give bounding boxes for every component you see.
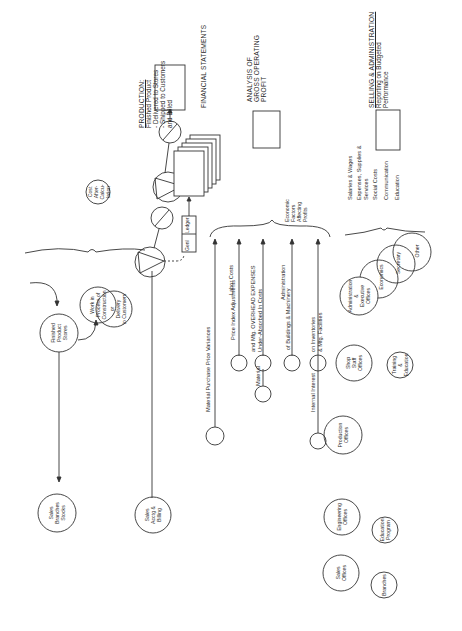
sales-offices-node: Sales Offices — [323, 555, 359, 591]
node-line: Branches — [381, 574, 387, 596]
node-line: Administration — [347, 280, 353, 313]
buildings-label: of Buildings & Machinery — [285, 288, 292, 350]
ledger-ledger-label: Ledger — [184, 217, 191, 233]
education-program-node: Education Program — [372, 517, 398, 543]
node-line: Executive — [359, 280, 365, 313]
node-line: & — [353, 280, 359, 313]
expense-item: Services — [362, 146, 370, 200]
sales-branches-stocks-node: Sales Branches Stocks — [38, 494, 76, 532]
expense-list: Salaries & Wages Expenses, Supplies & Se… — [345, 146, 403, 200]
node-line: to Customers — [121, 294, 127, 325]
finished-stores-node: Finished Product Stores — [40, 314, 78, 352]
node-line: Offices — [341, 565, 347, 581]
expense-item: Social Costs — [370, 146, 381, 200]
selling-admin-box — [376, 110, 400, 150]
selling-admin-line: Reporting on Budgeted — [375, 12, 382, 108]
gross-profit-title: ANALYSIS OF GROSS OPERATING PROFIT — [246, 35, 267, 102]
sales-acctg-billing-node: Sales Acctg & Billing — [135, 497, 171, 533]
expense-item: Salaries & Wages — [345, 146, 356, 200]
shop-staff-offices-node: Shop Staff Offices — [336, 345, 372, 381]
node-line: Stocks — [60, 502, 66, 524]
node-line: or — [109, 294, 115, 325]
overhead-line: and Mfg. OVERHEAD EXPENSES — [250, 266, 257, 352]
node-line: Offices — [343, 423, 349, 448]
node-line: lation — [104, 185, 110, 200]
price-index-label: Price Index Adjustments — [230, 280, 237, 340]
production-line: - Shipped to Customers — [159, 61, 166, 128]
node-line: Other — [414, 245, 420, 258]
gross-profit-box — [253, 111, 280, 148]
economic-factors-label: Economic Factors Affecting Profits — [284, 199, 308, 222]
gross-profit-line: ANALYSIS OF — [246, 35, 253, 102]
production-title: PRODUCTION: — [138, 61, 145, 128]
node-line: Offices — [342, 503, 348, 531]
ledger-genl-label: Genl — [184, 240, 191, 251]
internal-interest-label: Internal Interest — [310, 373, 317, 412]
node-line: After- — [92, 185, 98, 200]
production-line: - Delivered to Stores — [152, 61, 159, 128]
inventories-line: on Inventories — [310, 313, 317, 352]
other-node: Other — [405, 236, 429, 266]
production-line: Finished Product — [145, 61, 152, 128]
branches-node: Branches — [371, 572, 397, 598]
gross-profit-line: PROFIT — [260, 35, 267, 102]
overhead-label: and Mfg. OVERHEAD EXPENSES Under-Absorbe… — [250, 266, 264, 352]
production-offices-node: Production Offices — [324, 416, 362, 454]
economic-factors-line: Profits — [302, 199, 308, 222]
selling-admin-section: SELLING & ADMINISTRATION Reporting on Bu… — [368, 12, 389, 108]
training-education-node: Training & Education — [387, 352, 413, 378]
financial-statements-box — [174, 151, 204, 196]
expense-item: Education — [392, 146, 403, 200]
overhead-line: Under-Absorbed In Costs — [257, 266, 264, 352]
financial-statements-title: FINANCIAL STATEMENTS — [200, 25, 207, 108]
node-line: Economics — [378, 264, 384, 289]
node-line: Stores — [62, 323, 68, 343]
node-line: Delivery — [115, 294, 121, 325]
material-variances-label: Material Purchase Price Variances — [205, 327, 212, 412]
node-line: Billing — [156, 506, 162, 524]
selling-admin-title: SELLING & ADMINISTRATION — [368, 12, 375, 108]
node-line: Offices — [357, 355, 363, 371]
material-label: Material — [255, 366, 262, 386]
node-line: Secretary — [395, 252, 401, 274]
production-line: and Billed — [166, 61, 173, 128]
cost-after-calculation-node: Cost After- Calcu- lation — [86, 180, 110, 204]
selling-admin-line: Performance — [382, 12, 389, 108]
engineering-offices-node: Engineering Offices — [324, 499, 360, 535]
inventories-label: on Inventories & Mfg. Facilities — [310, 313, 324, 352]
node-line: Cost — [86, 185, 92, 200]
inventories-line: & Mfg. Facilities — [317, 313, 324, 352]
gross-profit-line: GROSS OPERATING — [253, 35, 260, 102]
delivery-node: or Delivery to Customers — [100, 291, 136, 327]
node-line: Production — [337, 423, 343, 448]
production-section: PRODUCTION: Finished Product - Delivered… — [138, 61, 173, 128]
node-line: Education — [403, 353, 409, 376]
node-line: Calcu- — [98, 185, 104, 200]
expense-item: Communication — [381, 146, 392, 200]
node-line: Program — [385, 518, 391, 541]
